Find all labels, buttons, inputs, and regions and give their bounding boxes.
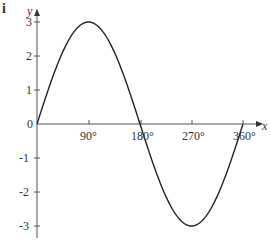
x-tick-270: 270° [182, 130, 205, 142]
y-tick-3: 3 [26, 16, 32, 28]
x-tick-360: 360° [233, 130, 256, 142]
y-tick-neg2: -2 [19, 186, 29, 198]
y-tick-2: 2 [26, 50, 32, 62]
y-tick-0: 0 [27, 118, 33, 130]
sine-graph [0, 0, 271, 246]
y-tick-neg1: -1 [19, 152, 29, 164]
y-tick-neg3: -3 [19, 220, 29, 232]
x-tick-180: 180° [131, 130, 154, 142]
y-tick-1: 1 [26, 84, 32, 96]
x-axis-label: x [262, 120, 267, 132]
x-tick-90: 90° [80, 130, 97, 142]
